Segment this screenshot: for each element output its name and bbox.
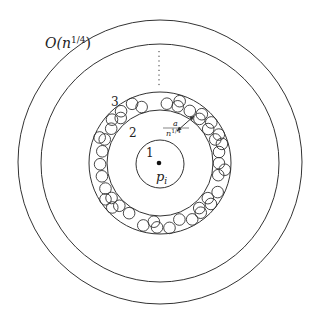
small-circle [97, 145, 109, 157]
point-dot [157, 161, 162, 166]
small-circle [94, 158, 106, 170]
small-circle [213, 146, 225, 158]
small-circle [123, 207, 135, 219]
outer-label: O(n1/4) [45, 35, 91, 51]
small-circle [194, 113, 206, 125]
svg-text:n1/4: n1/4 [166, 127, 181, 138]
small-circle [213, 157, 225, 169]
small-circle [137, 220, 149, 232]
concentric-circles-diagram: O(n1/4) 3 2 1 pi a n1/4 [0, 0, 318, 321]
small-circle [184, 105, 196, 117]
region-2-label: 2 [129, 126, 137, 140]
small-circle [195, 207, 207, 219]
small-circle [114, 200, 126, 212]
small-circle [212, 186, 224, 198]
small-circle [106, 114, 118, 126]
small-circle [174, 214, 186, 226]
small-circle [202, 123, 214, 135]
width-fraction-label: a n1/4 [163, 119, 189, 138]
small-circle [196, 108, 208, 120]
small-circle [115, 112, 127, 124]
small-circle [164, 222, 176, 234]
region-1-label: 1 [146, 146, 154, 160]
point-label: pi [156, 169, 167, 186]
small-circle [100, 183, 112, 195]
small-circle [205, 117, 217, 129]
region-3-label: 3 [111, 95, 119, 109]
small-circle [186, 214, 198, 226]
small-circle [126, 98, 138, 110]
small-circle [96, 171, 108, 183]
small-circle [161, 98, 173, 110]
